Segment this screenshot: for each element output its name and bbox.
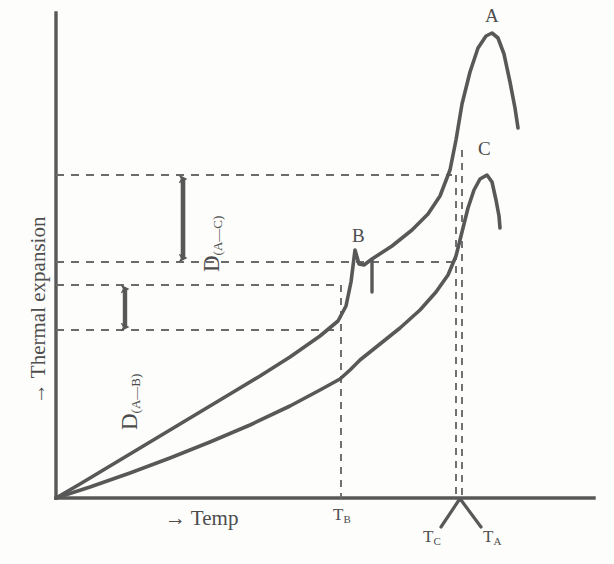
tick-label-tb-sub: B bbox=[343, 513, 350, 525]
tick-label-ta-main: T bbox=[483, 527, 493, 546]
delta-ac-label-main: D bbox=[199, 255, 224, 272]
horizontal-reference-lines bbox=[56, 175, 460, 330]
delta-ac-label: D(A—C) bbox=[200, 216, 223, 272]
tick-label-tb-main: T bbox=[333, 505, 343, 524]
peak-label-a: A bbox=[485, 6, 499, 25]
delta-ac-label-sub: (A—C) bbox=[210, 216, 225, 256]
tick-label-ta: TA bbox=[483, 528, 501, 545]
leader-line-tc bbox=[441, 500, 459, 527]
vertical-reference-lines bbox=[341, 150, 462, 498]
delta-ab-label: D(A—B) bbox=[118, 374, 141, 430]
tick-label-tb: TB bbox=[333, 506, 351, 523]
tick-label-tc: TC bbox=[423, 528, 441, 545]
tick-label-ta-sub: A bbox=[493, 535, 501, 547]
chart-canvas bbox=[0, 0, 614, 564]
peak-label-b: B bbox=[352, 226, 365, 245]
y-axis-label: → Thermal expansion bbox=[28, 217, 49, 404]
x-axis-label: → Temp bbox=[165, 508, 238, 529]
thermal-expansion-chart: → Thermal expansion → Temp A C B TB TC T… bbox=[0, 0, 614, 564]
delta-ab-label-sub: (A—B) bbox=[128, 374, 143, 414]
leader-line-ta bbox=[461, 500, 481, 527]
tick-label-tc-main: T bbox=[423, 527, 433, 546]
peak-label-c: C bbox=[478, 139, 491, 158]
tick-label-tc-sub: C bbox=[433, 535, 440, 547]
curve-c bbox=[56, 175, 500, 498]
delta-ab-label-main: D bbox=[117, 413, 142, 430]
tick-leader-lines bbox=[441, 500, 481, 527]
